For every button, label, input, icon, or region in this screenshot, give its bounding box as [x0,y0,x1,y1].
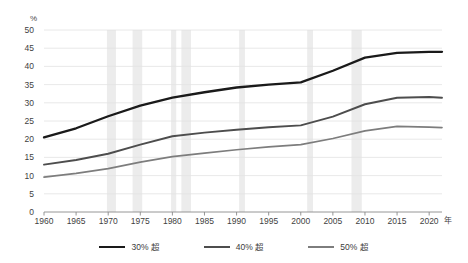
y-axis-tick-label: 5 [12,190,34,198]
chart-legend: 30% 超 40% 超 50% 超 [0,238,468,256]
x-axis-tick-label: 1975 [123,217,157,226]
x-axis-tick-label: 2000 [284,217,318,226]
x-axis-tick-label: 1970 [91,217,125,226]
y-axis-tick-label: 25 [12,117,34,125]
legend-swatch-50-icon [308,246,334,248]
legend-label-50: 50% 超 [340,242,368,252]
legend-item-30[interactable]: 30% 超 [99,242,159,252]
y-axis-tick-label: 10 [12,172,34,180]
y-axis-tick-label: 0 [12,208,34,216]
x-axis-tick-label: 2015 [380,217,414,226]
y-axis-unit-label: % [30,14,37,23]
x-axis-tick-label: 1990 [220,217,254,226]
x-axis-tick-label: 1985 [187,217,221,226]
legend-swatch-40-icon [204,246,230,248]
y-axis-tick-label: 35 [12,81,34,89]
y-axis-tick-label: 30 [12,99,34,107]
legend-item-50[interactable]: 50% 超 [308,242,368,252]
y-axis-tick-label: 15 [12,153,34,161]
x-axis-tick-label: 1995 [252,217,286,226]
x-axis-tick-label: 1965 [59,217,93,226]
x-axis-tick-label: 1960 [27,217,61,226]
legend-swatch-30-icon [99,246,125,249]
legend-label-40: 40% 超 [236,242,264,252]
y-axis-tick-label: 40 [12,62,34,70]
y-axis-tick-label: 45 [12,44,34,52]
y-axis-tick-label: 20 [12,135,34,143]
x-axis-tick-label: 2010 [348,217,382,226]
y-axis-tick-label: 50 [12,26,34,34]
legend-label-30: 30% 超 [131,242,159,252]
x-axis-tick-label: 1980 [155,217,189,226]
x-axis-tick-label: 2020 [412,217,446,226]
x-axis-tick-label: 2005 [316,217,350,226]
legend-item-40[interactable]: 40% 超 [204,242,264,252]
chart-container: % 05101520253035404550 19601965197019751… [0,0,468,263]
x-axis-unit-label: 年 [444,216,452,225]
